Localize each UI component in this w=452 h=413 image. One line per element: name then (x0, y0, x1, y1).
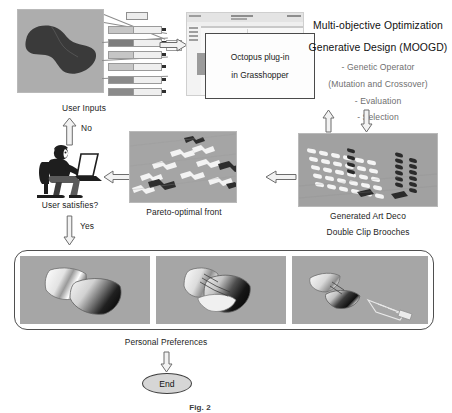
gh-slider-row[interactable] (108, 88, 162, 96)
moogd-title-line2: Generative Design (MOOGD) (309, 42, 448, 53)
octopus-callout-line1: Octopus plug-in (206, 52, 314, 62)
gh-slider-value (134, 89, 161, 95)
results-panel (14, 250, 434, 330)
gh-slider-value (134, 77, 161, 83)
moogd-bullet-mutation-crossover: (Mutation and Crossover) (328, 80, 427, 89)
grasshopper-slider-panel (104, 8, 166, 100)
arrow-yes-to-results (63, 216, 76, 246)
arrow-inputs-to-octopus (160, 38, 188, 52)
generated-array-shapes (299, 134, 437, 206)
moogd-bullet-genetic-operator: - Genetic Operator (342, 63, 415, 72)
figure-caption: Fig. 2 (189, 404, 211, 413)
arrow-generated-to-moogd (322, 110, 335, 133)
gh-slider-row[interactable] (108, 39, 162, 47)
gh-slider-value (134, 27, 161, 33)
end-node: End (142, 373, 192, 394)
pareto-front-photo (130, 132, 236, 202)
yes-branch-label: Yes (80, 222, 94, 231)
no-branch-label: No (81, 124, 92, 133)
gh-slider-row[interactable] (108, 51, 162, 59)
person-laptop-glyph (36, 140, 108, 200)
octopus-callout-line2: in Grasshopper (206, 70, 314, 80)
gh-slider-label (109, 77, 134, 83)
gh-slider-label (109, 64, 134, 70)
arrow-generated-to-pareto (266, 170, 296, 184)
brooch-result-2 (156, 256, 286, 324)
user-inputs-label: User Inputs (62, 104, 106, 113)
gh-slider-value (134, 52, 161, 58)
pareto-scatter-shapes (130, 132, 236, 202)
moogd-title-line1: Multi-objective Optimization (313, 20, 443, 31)
gh-slider-label (109, 89, 134, 95)
gh-slider-value (134, 64, 161, 70)
pareto-front-label: Pareto-optimal front (146, 208, 222, 217)
gh-slider-row[interactable] (108, 63, 162, 71)
gh-slider-row[interactable] (108, 76, 162, 84)
result-photo-2 (156, 256, 286, 324)
arrow-preferences-to-end (160, 352, 173, 373)
user-inputs-photo (18, 10, 103, 92)
gh-slider-label (109, 27, 134, 33)
brooch-result-3 (292, 256, 428, 324)
gh-slider-row[interactable] (108, 26, 162, 34)
personal-preferences-label: Personal Preferences (125, 338, 208, 347)
gh-slider-label (109, 52, 134, 58)
brooch-result-1 (20, 256, 150, 324)
gh-component-header (126, 12, 148, 20)
generated-label-line1: Generated Art Deco (330, 212, 406, 221)
brooch-model-shape (18, 10, 103, 92)
result-photo-3 (292, 256, 428, 324)
arrow-moogd-to-generated (360, 110, 373, 133)
gh-slider-label (109, 40, 134, 46)
user-at-laptop-icon (36, 140, 108, 200)
octopus-callout: Octopus plug-in in Grasshopper (205, 33, 315, 99)
moogd-bullet-evaluation: - Evaluation (355, 97, 402, 106)
generated-label-line2: Double Clip Brooches (326, 228, 409, 237)
generated-brooches-photo (299, 134, 437, 206)
gh-slider-value (134, 40, 161, 46)
user-satisfies-label: User satisfies? (42, 201, 98, 210)
result-photo-1 (20, 256, 150, 324)
arrow-pareto-to-user (104, 170, 130, 184)
